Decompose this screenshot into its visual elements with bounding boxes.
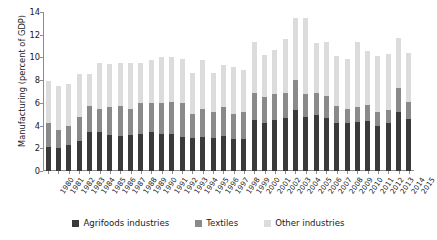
bar-segment xyxy=(97,132,102,171)
x-tick-mark xyxy=(182,171,183,174)
bar-segment xyxy=(97,63,102,108)
legend-item[interactable]: Agrifoods industries xyxy=(72,219,169,228)
legend-swatch-icon xyxy=(195,220,202,227)
bar-segment xyxy=(159,57,164,102)
bar-segment xyxy=(293,18,298,80)
y-tick-label: 2 xyxy=(35,144,40,152)
bar-segment xyxy=(241,70,246,112)
bar-segment xyxy=(159,103,164,134)
bar-segment xyxy=(211,73,216,112)
x-tick-mark xyxy=(388,171,389,174)
bar-segment xyxy=(396,88,401,112)
bar-segment xyxy=(324,42,329,97)
bar-segment xyxy=(272,94,277,120)
bar-segment xyxy=(211,138,216,171)
bar-segment xyxy=(46,147,51,171)
bar-segment xyxy=(56,148,61,171)
x-tick-mark xyxy=(265,171,266,174)
bar-segment xyxy=(221,65,226,107)
bar-segment xyxy=(365,51,370,106)
bar-segment xyxy=(345,109,350,124)
y-tick-label: 0 xyxy=(35,167,40,175)
bar-segment xyxy=(87,74,92,106)
x-tick-mark xyxy=(244,171,245,174)
bar-segment xyxy=(107,107,112,134)
bar-segment xyxy=(355,122,360,171)
bar-segment xyxy=(262,55,267,97)
x-tick-mark xyxy=(151,171,152,174)
bar-segment xyxy=(386,110,391,124)
bar-segment xyxy=(190,138,195,171)
bar-segment xyxy=(406,102,411,119)
bar-segment xyxy=(386,54,391,110)
bar-segment xyxy=(396,38,401,88)
x-tick-mark xyxy=(58,171,59,174)
bar-segment xyxy=(406,119,411,171)
bar-segment xyxy=(107,135,112,171)
bar-segment xyxy=(87,106,92,132)
bar-segment xyxy=(128,135,133,171)
x-tick-mark xyxy=(110,171,111,174)
x-tick-mark xyxy=(79,171,80,174)
bar-segment xyxy=(77,141,82,171)
bar-segment xyxy=(211,112,216,138)
bar-segment xyxy=(107,64,112,107)
bar-segment xyxy=(118,136,123,171)
y-tick-label: 6 xyxy=(35,99,40,107)
bar-segment xyxy=(345,59,350,109)
bar-segment xyxy=(365,105,370,121)
bar-segment xyxy=(314,43,319,93)
x-tick-mark xyxy=(337,171,338,174)
bar-segment xyxy=(87,132,92,171)
bar-segment xyxy=(138,134,143,171)
legend-item[interactable]: Textiles xyxy=(195,219,238,228)
bar-segment xyxy=(231,139,236,171)
bar-segment xyxy=(406,53,411,102)
bar-segment xyxy=(396,112,401,171)
bar-segment xyxy=(180,59,185,103)
bar-segment xyxy=(180,103,185,137)
bar-segment xyxy=(138,63,143,103)
x-tick-mark xyxy=(357,171,358,174)
x-tick-mark xyxy=(326,171,327,174)
bar-segment xyxy=(66,126,71,145)
x-tick-mark xyxy=(223,171,224,174)
y-tick-label: 10 xyxy=(29,53,40,61)
y-tick-label: 14 xyxy=(29,8,40,16)
legend-swatch-icon xyxy=(264,220,271,227)
bar-segment xyxy=(149,60,154,103)
chart-legend: Agrifoods industriesTextilesOther indust… xyxy=(0,219,417,228)
x-tick-mark xyxy=(69,171,70,174)
bar-segment xyxy=(375,126,380,171)
x-tick-mark xyxy=(89,171,90,174)
legend-item[interactable]: Other industries xyxy=(264,219,344,228)
y-tick-label: 4 xyxy=(35,121,40,129)
bar-segment xyxy=(77,74,82,116)
bar-segment xyxy=(46,123,51,147)
x-tick-mark xyxy=(306,171,307,174)
bar-segment xyxy=(77,117,82,142)
bar-segment xyxy=(97,109,102,133)
x-tick-mark xyxy=(213,171,214,174)
bar-segment xyxy=(252,93,257,120)
bar-series-container xyxy=(43,12,414,171)
bar-segment xyxy=(149,132,154,171)
bar-segment xyxy=(56,130,61,148)
bar-segment xyxy=(303,18,308,94)
bar-segment xyxy=(334,123,339,171)
bar-segment xyxy=(169,134,174,171)
bar-segment xyxy=(149,103,154,133)
bar-segment xyxy=(303,117,308,172)
x-tick-mark xyxy=(409,171,410,174)
bar-segment xyxy=(200,137,205,171)
bar-segment xyxy=(303,94,308,117)
y-tick-mark xyxy=(40,171,43,172)
x-tick-mark xyxy=(141,171,142,174)
bar-segment xyxy=(283,118,288,171)
bar-segment xyxy=(334,56,339,106)
x-tick-mark xyxy=(254,171,255,174)
x-tick-mark xyxy=(203,171,204,174)
bar-segment xyxy=(324,118,329,171)
bar-segment xyxy=(252,42,257,93)
bar-segment xyxy=(128,109,133,135)
